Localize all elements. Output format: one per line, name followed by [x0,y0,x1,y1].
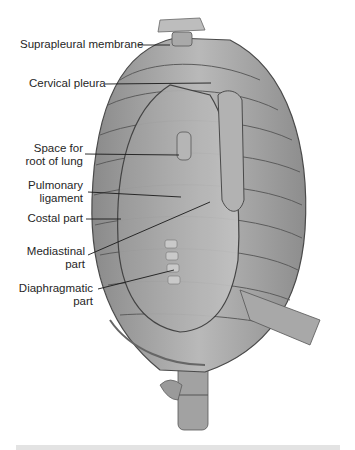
thoracic-cage-illustration [0,0,355,450]
label-space-for-root-of-lung: Space for root of lung [25,142,83,168]
label-cervical-pleura: Cervical pleura [29,77,106,90]
label-suprapleural-membrane: Suprapleural membrane [20,38,143,51]
label-mediastinal-part: Mediastinal part [27,245,85,271]
label-pulmonary-ligament: Pulmonary ligament [28,179,83,205]
label-costal-part: Costal part [27,212,83,225]
footer-bar [16,445,340,450]
label-diaphragmatic-part: Diaphragmatic part [19,282,93,308]
